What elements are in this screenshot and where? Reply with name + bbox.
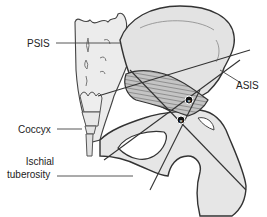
ischium bbox=[100, 110, 246, 216]
label-ischial: Ischial bbox=[20, 156, 54, 167]
label-coccyx: Coccyx bbox=[18, 124, 51, 135]
pelvis-illustration: × × bbox=[0, 0, 267, 217]
label-asis: ASIS bbox=[236, 80, 259, 91]
label-tuberosity: tuberosity bbox=[7, 169, 50, 180]
pelvis-diagram: × × PSIS ASIS Coccyx Ischial tuberosity bbox=[0, 0, 267, 217]
svg-text:×: × bbox=[187, 98, 191, 104]
label-psis: PSIS bbox=[27, 38, 50, 49]
svg-text:×: × bbox=[179, 118, 183, 124]
